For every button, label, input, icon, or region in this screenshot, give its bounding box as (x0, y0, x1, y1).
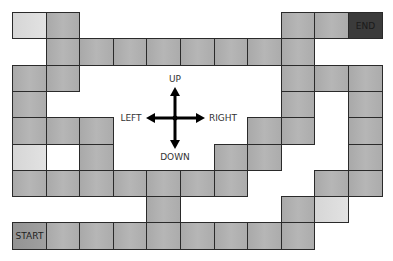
compass-down-label: DOWN (160, 152, 190, 162)
direction-compass-icon (0, 0, 393, 261)
compass-right-label: RIGHT (209, 113, 237, 123)
compass-up-label: UP (169, 74, 181, 84)
compass-left-label: LEFT (120, 113, 141, 123)
